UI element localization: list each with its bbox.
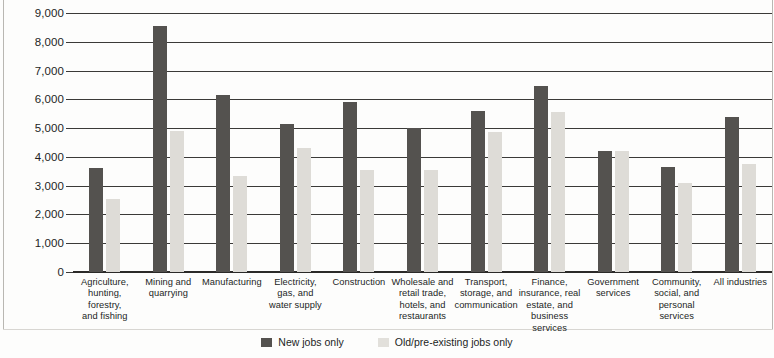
bar-group — [407, 13, 438, 272]
x-axis-tick-label: All industries — [708, 277, 772, 288]
x-axis-label-line: All industries — [708, 277, 772, 288]
bar-new-jobs — [89, 168, 103, 272]
bar-old-jobs — [488, 132, 502, 272]
x-axis-label-line: restaurants — [391, 311, 455, 322]
y-axis-tick-label: 0 — [58, 266, 65, 278]
x-axis-label-line: Agriculture, — [73, 277, 137, 288]
y-axis-tick — [66, 99, 73, 100]
x-axis-label-line: social, and — [645, 288, 709, 299]
y-axis-tick-label: 7,000 — [35, 65, 64, 77]
y-axis-tick-label: 1,000 — [35, 237, 64, 249]
x-axis-tick-label: Agriculture,hunting, forestry,and fishin… — [73, 277, 137, 323]
bar-new-jobs — [725, 117, 739, 272]
y-axis-tick — [66, 243, 73, 244]
x-axis-label-line: Government — [581, 277, 645, 288]
x-axis-labels: Agriculture,hunting, forestry,and fishin… — [73, 277, 772, 327]
bar-new-jobs — [661, 167, 675, 272]
bar-old-jobs — [678, 183, 692, 272]
x-axis-label-line: and fishing — [73, 311, 137, 322]
x-axis-label-line: business services — [518, 311, 582, 334]
bar-old-jobs — [360, 170, 374, 272]
bar-group — [725, 13, 756, 272]
bar-old-jobs — [297, 148, 311, 272]
x-axis-label-line: quarrying — [137, 288, 201, 299]
y-axis-tick — [66, 128, 73, 129]
y-axis-labels: 01,0002,0003,0004,0005,0006,0007,0008,00… — [0, 13, 64, 272]
legend-label: Old/pre-existing jobs only — [395, 336, 513, 348]
x-axis-label-line: personal services — [645, 300, 709, 323]
y-axis-tick — [66, 272, 73, 273]
x-axis-label-line: Transport, — [454, 277, 518, 288]
x-axis-tick-label: Wholesale andretail trade,hotels, andres… — [391, 277, 455, 323]
plot-area — [73, 13, 772, 272]
x-axis-label-line: Mining and — [137, 277, 201, 288]
x-axis-label-line: hotels, and — [391, 300, 455, 311]
y-axis-tick — [66, 214, 73, 215]
y-axis-tick-label: 3,000 — [35, 180, 64, 192]
x-axis-tick-label: Transport,storage, andcommunication — [454, 277, 518, 311]
legend-swatch-icon — [378, 338, 389, 347]
bar-group — [598, 13, 629, 272]
x-axis-label-line: insurance, real — [518, 288, 582, 299]
chart-legend: New jobs onlyOld/pre-existing jobs only — [0, 336, 774, 348]
bar-new-jobs — [407, 128, 421, 272]
bar-chart: 01,0002,0003,0004,0005,0006,0007,0008,00… — [0, 0, 774, 358]
x-axis-label-line: storage, and — [454, 288, 518, 299]
chart-frame-bottom-border — [3, 329, 773, 330]
bar-group — [153, 13, 184, 272]
x-axis-label-line: Wholesale and — [391, 277, 455, 288]
x-axis-label-line: services — [581, 288, 645, 299]
bar-new-jobs — [598, 151, 612, 272]
bar-new-jobs — [216, 95, 230, 272]
y-axis-tick-label: 9,000 — [35, 7, 64, 19]
x-axis-label-line: estate, and — [518, 300, 582, 311]
bar-new-jobs — [153, 26, 167, 272]
x-axis-label-line: water supply — [264, 300, 328, 311]
bar-new-jobs — [471, 111, 485, 272]
legend-label: New jobs only — [278, 336, 343, 348]
bar-group — [280, 13, 311, 272]
x-axis-label-line: Electricity, — [264, 277, 328, 288]
y-axis-tick-label: 2,000 — [35, 208, 64, 220]
bar-group — [216, 13, 247, 272]
y-axis-tick-label: 6,000 — [35, 93, 64, 105]
y-axis-tick — [66, 157, 73, 158]
bar-old-jobs — [615, 151, 629, 272]
legend-item: Old/pre-existing jobs only — [378, 336, 513, 348]
y-axis-tick — [66, 186, 73, 187]
x-axis-tick-label: Electricity,gas, andwater supply — [264, 277, 328, 311]
x-axis-label-line: gas, and — [264, 288, 328, 299]
x-axis-label-line: Finance, — [518, 277, 582, 288]
x-axis-tick-label: Manufacturing — [200, 277, 264, 288]
y-axis-tick — [66, 42, 73, 43]
y-axis-tick-label: 4,000 — [35, 151, 64, 163]
bar-new-jobs — [280, 124, 294, 272]
legend-swatch-icon — [261, 338, 272, 347]
bar-group — [534, 13, 565, 272]
chart-frame-right-border — [772, 0, 773, 330]
y-axis-tick — [66, 13, 73, 14]
x-axis-label-line: Construction — [327, 277, 391, 288]
x-axis-tick-label: Mining andquarrying — [137, 277, 201, 300]
x-axis-label-line: hunting, forestry, — [73, 288, 137, 311]
bar-new-jobs — [534, 86, 548, 272]
x-axis-label-line: Manufacturing — [200, 277, 264, 288]
bar-new-jobs — [343, 102, 357, 272]
bar-old-jobs — [742, 164, 756, 272]
bar-group — [661, 13, 692, 272]
bar-old-jobs — [424, 170, 438, 272]
x-axis-label-line: retail trade, — [391, 288, 455, 299]
x-axis-label-line: communication — [454, 300, 518, 311]
bar-group — [343, 13, 374, 272]
bar-old-jobs — [233, 176, 247, 272]
x-axis-tick-label: Finance,insurance, realestate, andbusine… — [518, 277, 582, 334]
y-axis-tick-label: 5,000 — [35, 122, 64, 134]
bar-old-jobs — [170, 131, 184, 272]
bar-group — [89, 13, 120, 272]
x-axis-tick-label: Governmentservices — [581, 277, 645, 300]
x-axis-tick-label: Construction — [327, 277, 391, 288]
x-axis-tick-label: Community,social, andpersonal services — [645, 277, 709, 323]
x-axis-label-line: Community, — [645, 277, 709, 288]
bar-group — [471, 13, 502, 272]
bar-old-jobs — [106, 199, 120, 272]
